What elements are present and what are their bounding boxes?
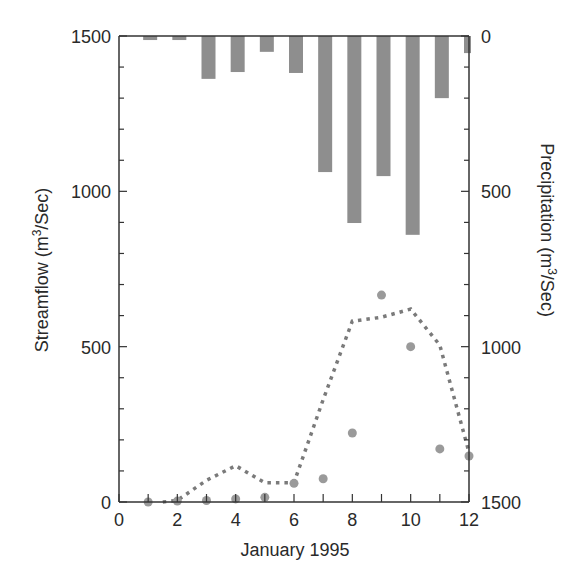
precipitation-bar (347, 36, 361, 223)
x-tick-label: 10 (401, 510, 421, 530)
right-y-axis-title: Precipitation (m3/Sec) (537, 143, 559, 317)
simulated-streamflow-path (163, 309, 469, 502)
x-tick-label: 0 (114, 510, 124, 530)
right-tick-label: 1000 (481, 338, 521, 358)
observed-point (319, 474, 328, 483)
left-tick-label: 1000 (71, 182, 111, 202)
observed-point (290, 479, 299, 488)
observed-point (406, 342, 415, 351)
right-tick-label: 1500 (481, 493, 521, 513)
left-tick-label: 500 (81, 338, 111, 358)
tick-labels: 050010001500050010001500024681012 (71, 27, 521, 530)
x-axis-title: January 1995 (240, 540, 349, 560)
observed-point (435, 444, 444, 453)
precipitation-bars (143, 36, 471, 235)
precipitation-bar (406, 36, 420, 235)
precipitation-bar (231, 36, 245, 72)
x-tick-label: 4 (231, 510, 241, 530)
left-tick-label: 1500 (71, 27, 111, 47)
precipitation-bar (464, 36, 471, 53)
precipitation-bar (377, 36, 391, 176)
simulated-streamflow-line (163, 309, 469, 502)
x-tick-label: 12 (459, 510, 479, 530)
x-tick-label: 2 (172, 510, 182, 530)
precipitation-bar (202, 36, 216, 79)
observed-streamflow-points (144, 291, 474, 507)
observed-point (377, 291, 386, 300)
precipitation-bar (289, 36, 303, 73)
observed-point (348, 429, 357, 438)
right-tick-label: 500 (481, 182, 511, 202)
right-tick-label: 0 (481, 27, 491, 47)
precipitation-bar (318, 36, 332, 172)
left-tick-label: 0 (101, 493, 111, 513)
x-tick-label: 8 (347, 510, 357, 530)
left-y-axis-title: Streamflow (m3/Sec) (30, 188, 52, 353)
hydrograph-chart: 050010001500050010001500024681012 Januar… (0, 0, 578, 587)
x-tick-label: 6 (289, 510, 299, 530)
precipitation-bar (435, 36, 449, 98)
precipitation-bar (260, 36, 274, 52)
